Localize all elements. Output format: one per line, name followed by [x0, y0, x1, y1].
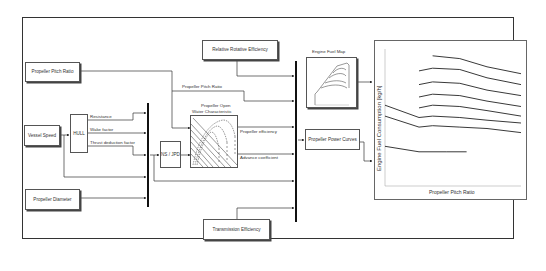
vessel-speed-block[interactable]: Vessel Speed [24, 125, 60, 146]
signal-resistance: Resistance [90, 115, 112, 119]
chart-curve-4 [419, 94, 521, 106]
ns-jpd-label: NS / JPD [161, 152, 180, 157]
propeller-pitch-ratio-block[interactable]: Propeller Pitch Ratio [25, 62, 80, 82]
propeller-power-curves-label: Propeller Power Curves [308, 137, 357, 142]
signal-propeller-efficiency: Propeller efficiency [240, 130, 277, 134]
chart-curve-8 [385, 146, 467, 152]
propeller-pitch-ratio-label: Propeller Pitch Ratio [32, 69, 74, 74]
hull-label: HULL [73, 131, 85, 136]
transmission-efficiency-block[interactable]: Transmission Efficiency [203, 219, 270, 240]
propeller-diameter-label: Propeller Diameter [33, 197, 71, 202]
simulink-block-diagram: Propeller Pitch Ratio Vessel Speed HULL … [0, 0, 546, 271]
chart-x-axis-label: Propeller Pitch Ratio [429, 189, 475, 195]
propeller-diameter-block[interactable]: Propeller Diameter [25, 189, 80, 210]
relative-rotative-efficiency-label: Relative Rotative Efficiency [212, 47, 268, 52]
signal-advance-coefficient: Advance coefficient [240, 156, 278, 160]
chart-curve-7 [385, 116, 521, 133]
open-water-curves-icon [191, 116, 237, 167]
chart-curve-6 [385, 105, 521, 123]
ns-jpd-block[interactable]: NS / JPD [160, 141, 181, 168]
left-bus-bar [147, 103, 149, 207]
engine-fuel-map-icon [307, 58, 356, 107]
signal-wake-factor: Wake factor [90, 128, 113, 132]
open-water-title-1: Propeller Open [201, 104, 231, 108]
relative-rotative-efficiency-block[interactable]: Relative Rotative Efficiency [202, 40, 278, 60]
propeller-open-water-block[interactable] [190, 115, 238, 168]
transmission-efficiency-label: Transmission Efficiency [213, 227, 261, 232]
propeller-power-curves-block[interactable]: Propeller Power Curves [305, 129, 360, 150]
engine-fuel-map-block[interactable] [306, 57, 357, 108]
right-bus-bar [295, 61, 297, 222]
vessel-speed-label: Vessel Speed [28, 133, 56, 138]
chart-curve-1 [433, 56, 521, 74]
fuel-consumption-chart: Engine Fuel Consumption [kg/h] Propeller… [374, 40, 527, 200]
hull-block[interactable]: HULL [70, 114, 88, 153]
chart-y-axis-label: Engine Fuel Consumption [kg/h] [376, 86, 382, 171]
signal-propeller-pitch-ratio: Propeller Pitch Ratio [182, 85, 222, 89]
chart-curve-5 [419, 105, 521, 116]
open-water-title-2: Water Characteristic [192, 110, 232, 114]
fuel-consumption-plot [375, 41, 526, 199]
signal-thrust-deduction-factor: Thrust deduction factor [90, 141, 135, 145]
engine-fuel-map-title: Engine Fuel Map [312, 50, 345, 54]
chart-curve-3 [419, 82, 521, 96]
